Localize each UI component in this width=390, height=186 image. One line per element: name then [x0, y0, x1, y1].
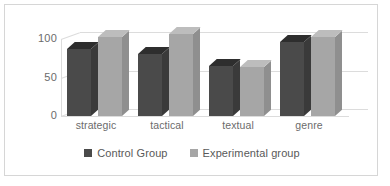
bar-control-genre	[280, 42, 304, 116]
x-axis-label-genre: genre	[274, 119, 344, 131]
bar-side	[162, 48, 169, 116]
legend-swatch-control-icon	[84, 149, 92, 157]
x-axis-label-strategic: strategic	[61, 119, 131, 131]
x-axis-label-textual: textual	[203, 119, 273, 131]
bar-control-tactical	[138, 54, 162, 116]
bar-face	[169, 34, 193, 116]
bar-face	[98, 37, 122, 116]
legend-item-experimental-group[interactable]: Experimental group	[190, 147, 300, 159]
bar-face	[240, 67, 264, 116]
legend-item-control-group[interactable]: Control Group	[84, 147, 167, 159]
bar-face	[311, 37, 335, 116]
bar-experimental-textual	[240, 67, 264, 116]
bar-face	[67, 49, 91, 116]
gridline-slant-100	[61, 32, 80, 40]
bar-control-strategic	[67, 49, 91, 116]
bar-side	[264, 61, 271, 116]
bar-side	[304, 36, 311, 116]
chart-container: 100 50 0	[4, 4, 378, 176]
y-axis-tick-label-50: 50	[23, 71, 57, 83]
bar-experimental-strategic	[98, 37, 122, 116]
bar-side	[193, 28, 200, 116]
legend-label-experimental-group: Experimental group	[203, 147, 300, 159]
bar-experimental-tactical	[169, 34, 193, 116]
chart-legend: Control Group Experimental group	[5, 147, 379, 159]
y-axis-tick-label-0: 0	[23, 109, 57, 121]
bar-control-textual	[209, 66, 233, 116]
bar-experimental-genre	[311, 37, 335, 116]
x-axis-label-tactical: tactical	[132, 119, 202, 131]
bar-side	[122, 31, 129, 116]
floor-front-line	[61, 116, 349, 117]
bar-face	[138, 54, 162, 116]
bar-side	[233, 60, 240, 116]
y-axis-tick-label-100: 100	[23, 32, 57, 44]
bar-side	[335, 31, 342, 116]
y-axis-line	[61, 39, 62, 117]
plot-area: 100 50 0	[5, 5, 379, 135]
bar-face	[209, 66, 233, 116]
bar-side	[91, 43, 98, 116]
legend-swatch-experimental-icon	[190, 149, 198, 157]
bar-face	[280, 42, 304, 116]
legend-label-control-group: Control Group	[97, 147, 167, 159]
